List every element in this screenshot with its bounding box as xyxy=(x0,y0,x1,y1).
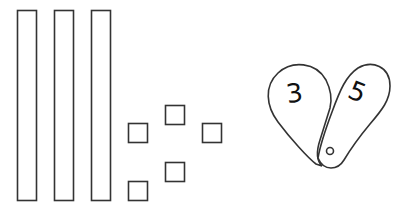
tens-rod xyxy=(92,11,111,201)
unit-cube xyxy=(203,124,222,143)
unit-cube xyxy=(166,106,185,125)
unit-cube xyxy=(129,182,148,201)
tens-rods xyxy=(18,11,111,201)
place-value-diagram: 3 5 xyxy=(0,0,407,208)
tens-rod xyxy=(55,11,74,201)
fan-pivot-icon xyxy=(327,148,334,155)
unit-cubes xyxy=(129,106,222,201)
tens-rod xyxy=(18,11,37,201)
number-fan: 3 5 xyxy=(268,65,390,168)
unit-cube xyxy=(129,124,148,143)
unit-cube xyxy=(166,163,185,182)
